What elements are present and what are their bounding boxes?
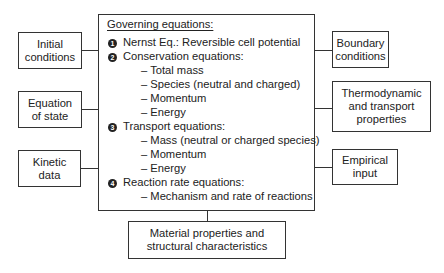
number-4-icon: 4 (108, 179, 117, 188)
governing-equations-title: Governing equations: (107, 18, 213, 31)
equation-of-state-box: Equation of state (18, 91, 82, 128)
sub-item: – Momentum (141, 92, 206, 105)
sub-item: – Mechanism and rate of reactions (141, 190, 313, 203)
number-2-icon: 2 (108, 53, 117, 62)
connector-initial-conditions (82, 50, 98, 51)
sub-item: – Species (neutral and charged) (141, 78, 300, 91)
equation-item-4: 4Reaction rate equations: (108, 176, 244, 189)
boundary-conditions-box: Boundary conditions (332, 31, 389, 68)
number-1-icon: 1 (108, 39, 117, 48)
governing-equations-box: Governing equations: 1Nernst Eq.: Revers… (98, 14, 315, 211)
kinetic-data-box: Kinetic data (18, 150, 81, 187)
connector-empirical-input (314, 167, 332, 168)
number-3-icon: 3 (108, 123, 117, 132)
equation-item-2: 2Conservation equations: (108, 50, 244, 63)
connector-material-properties (207, 210, 208, 221)
sub-item: – Total mass (141, 64, 204, 77)
initial-conditions-box: Initial conditions (18, 32, 82, 69)
sub-item: – Energy (141, 162, 186, 175)
connector-equation-of-state (82, 109, 98, 110)
empirical-input-box: Empirical input (332, 149, 398, 185)
connector-boundary-conditions (314, 50, 332, 51)
material-properties-box: Material properties and structural chara… (128, 221, 286, 259)
sub-item: – Momentum (141, 148, 206, 161)
equation-item-3: 3Transport equations: (108, 120, 225, 133)
sub-item: – Energy (141, 106, 186, 119)
sub-item: – Mass (neutral or charged species) (141, 134, 319, 147)
equation-item-1: 1Nernst Eq.: Reversible cell potential (108, 36, 300, 49)
connector-kinetic-data (81, 168, 98, 169)
connector-thermodynamic (314, 108, 332, 109)
thermodynamic-transport-box: Thermodynamic and transport properties (332, 81, 431, 132)
